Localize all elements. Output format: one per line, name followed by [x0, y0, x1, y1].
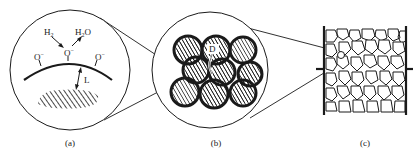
panel-c [316, 26, 413, 115]
panel-a: H2 H2O O− O− O− L [10, 10, 130, 130]
magnified-circle-a [10, 10, 130, 130]
caption-a: (a) [65, 138, 75, 148]
caption-b: (b) [211, 138, 222, 148]
label-diameter-d: D [209, 44, 216, 54]
hatched-core [38, 90, 98, 109]
caption-c: (c) [360, 138, 370, 148]
porous-layer [325, 28, 406, 114]
label-distance-l: L [84, 75, 90, 85]
panel-b: D [152, 12, 268, 128]
diagram-canvas: H2 H2O O− O− O− L [0, 0, 420, 156]
